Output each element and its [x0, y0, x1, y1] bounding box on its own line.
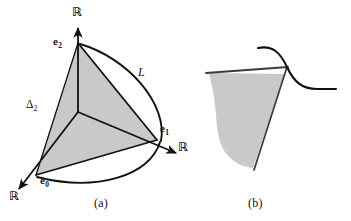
- vertex-label-e2: e2: [53, 36, 62, 47]
- vertex-label-e1: e1: [160, 123, 169, 134]
- simplex-label: Δ2: [26, 99, 37, 111]
- vertex-label-e0: e0: [40, 175, 49, 186]
- funnel-fill: [209, 73, 285, 168]
- curve-label-L: L: [138, 66, 145, 78]
- axis-label-lower-left: ℝ: [9, 190, 19, 202]
- figure-canvas: [0, 0, 351, 221]
- figure-root: ℝ e2 Δ2 L e1 ℝ e0 ℝ (a) (b): [0, 0, 351, 221]
- axis-label-top: ℝ: [72, 6, 82, 18]
- caption-panel-b: (b): [248, 197, 263, 209]
- simplex-fill: [36, 43, 157, 175]
- vertex-e0-sub: 0: [45, 180, 49, 189]
- vertex-e2-sub: 2: [58, 41, 62, 50]
- panel-b-group: [206, 47, 336, 170]
- caption-panel-a: (a): [94, 197, 108, 209]
- panel-a-group: [19, 28, 176, 189]
- vertex-e1-sub: 1: [165, 128, 169, 137]
- funnel-top-edge: [206, 67, 288, 73]
- simplex-label-sub: 2: [33, 104, 37, 113]
- axis-label-right: ℝ: [178, 141, 188, 153]
